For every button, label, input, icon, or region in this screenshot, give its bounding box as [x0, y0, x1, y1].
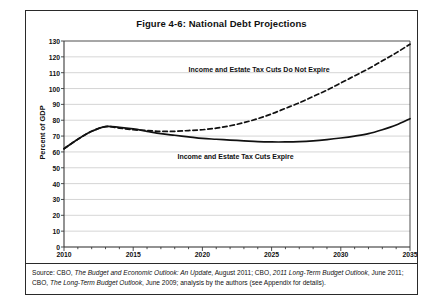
- source-text-4: , June 2009; analysis by the authors (se…: [142, 279, 326, 286]
- x-axis-tick-label: 2035: [390, 251, 430, 258]
- page-title: Figure 4-6: National Debt Projections: [26, 18, 417, 29]
- y-axis-tick-label: 10: [36, 228, 60, 235]
- source-divider: [26, 263, 417, 264]
- y-axis-tick-label: 50: [36, 164, 60, 171]
- source-text-2: , August 2011; CBO,: [211, 269, 272, 276]
- series-line-1: [64, 44, 410, 149]
- x-axis-tick-label: 2030: [321, 251, 361, 258]
- source-title-3: The Long-Term Budget Outlook: [50, 279, 142, 286]
- y-axis-tick-label: 70: [36, 133, 60, 140]
- y-axis-tick-label: 60: [36, 148, 60, 155]
- source-title-1: The Budget and Economic Outlook: An Upda…: [75, 269, 212, 276]
- y-axis-tick-label: 40: [36, 180, 60, 187]
- y-axis-tick-label: 80: [36, 117, 60, 124]
- x-axis-tick-label: 2010: [44, 251, 84, 258]
- source-note: Source: CBO, The Budget and Economic Out…: [32, 268, 410, 287]
- y-axis-tick-label: 110: [36, 69, 60, 76]
- figure-container: Figure 4-6: National Debt Projections Pe…: [25, 10, 418, 295]
- x-axis-tick-label: 2015: [113, 251, 153, 258]
- x-axis-tick-label: 2025: [252, 251, 292, 258]
- y-axis-tick-label: 90: [36, 101, 60, 108]
- source-text-1: Source: CBO,: [32, 269, 75, 276]
- series-annotation-expire: Income and Estate Tax Cuts Expire: [177, 153, 293, 160]
- series-annotation-no-expire: Income and Estate Tax Cuts Do Not Expire: [189, 66, 330, 73]
- y-axis-tick-label: 0: [36, 244, 60, 251]
- series-line-2: [64, 119, 410, 149]
- y-axis-tick-label: 130: [36, 38, 60, 45]
- y-axis-tick-label: 20: [36, 212, 60, 219]
- y-axis-tick-label: 100: [36, 85, 60, 92]
- source-title-2: 2011 Long-Term Budget Outlook: [273, 269, 368, 276]
- y-axis-tick-label: 30: [36, 196, 60, 203]
- chart-plot: Percent of GDP 0102030405060708090100110…: [26, 33, 419, 263]
- y-axis-tick-label: 120: [36, 53, 60, 60]
- x-axis-tick-label: 2020: [182, 251, 222, 258]
